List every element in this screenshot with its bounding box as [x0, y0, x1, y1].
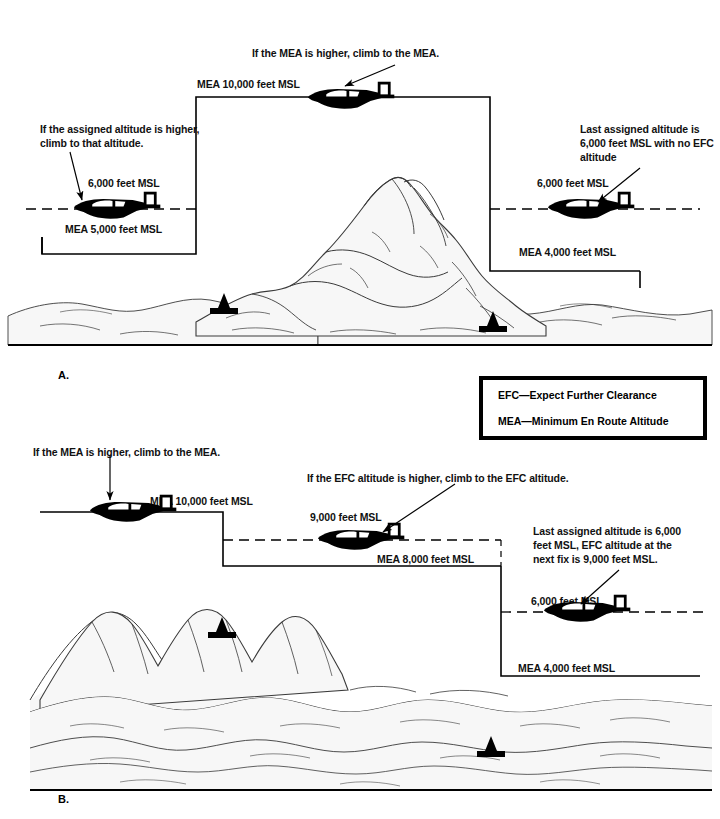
panel-b-mea-8000-label: MEA 8,000 feet MSL	[377, 552, 474, 566]
panel-a-mea-10000-label: MEA 10,000 feet MSL	[197, 77, 300, 91]
panel-b-fix-right	[477, 736, 505, 757]
panel-a-aircraft-right-6000	[548, 192, 634, 219]
panel-a-mea-5000-label: MEA 5,000 feet MSL	[65, 222, 162, 236]
panel-a-aircraft-10000	[308, 82, 394, 109]
panel-b-mea-4000-label: MEA 4,000 feet MSL	[518, 661, 615, 675]
panel-a-aircraft-6000-right-label: 6,000 feet MSL	[537, 176, 609, 190]
panel-b-last-assigned-efc-note: Last assigned altitude is 6,000 feet MSL…	[533, 524, 681, 566]
panel-b-terrain	[30, 610, 712, 791]
panel-b-aircraft-6000-label: 6,000 feet MSL	[531, 594, 603, 608]
panel-b-fix-left	[208, 617, 236, 638]
panel-a-arrow-mea-higher	[345, 65, 395, 86]
abbreviation-legend: EFC—Expect Further Clearance MEA—Minimum…	[479, 376, 707, 440]
figure-page: If the MEA is higher, climb to the MEA. …	[0, 0, 720, 819]
panel-a-mea-4000-label: MEA 4,000 feet MSL	[519, 245, 616, 259]
panel-a-mea-higher-note: If the MEA is higher, climb to the MEA.	[252, 46, 439, 60]
legend-line-efc: EFC—Expect Further Clearance	[498, 389, 657, 401]
panel-b-efc-higher-note: If the EFC altitude is higher, climb to …	[307, 471, 569, 485]
panel-b-aircraft-9000-label: 9,000 feet MSL	[310, 510, 382, 524]
panel-a-arrow-assigned-higher	[70, 152, 82, 200]
panel-a-aircraft-left-6000	[74, 192, 160, 219]
panel-a-fix-left	[210, 293, 238, 314]
panel-a-last-assigned-note: Last assigned altitude is 6,000 feet MSL…	[580, 122, 714, 164]
panel-b-aircraft-9000	[318, 523, 404, 550]
legend-line-mea: MEA—Minimum En Route Altitude	[498, 415, 669, 427]
panel-b-mea-10000-label: MEA 10,000 feet MSL	[150, 494, 253, 508]
panel-a-fix-right	[479, 311, 507, 332]
panel-a-aircraft-6000-left-label: 6,000 feet MSL	[88, 176, 160, 190]
panel-b-arrow-efc-higher	[383, 484, 455, 532]
panel-b-mea-higher-note: If the MEA is higher, climb to the MEA.	[33, 445, 220, 459]
panel-a-terrain	[8, 177, 712, 345]
panel-a-assigned-higher-note: If the assigned altitude is higher, clim…	[40, 122, 199, 150]
panel-a-label: A.	[58, 369, 69, 381]
panel-b-label: B.	[58, 793, 69, 805]
